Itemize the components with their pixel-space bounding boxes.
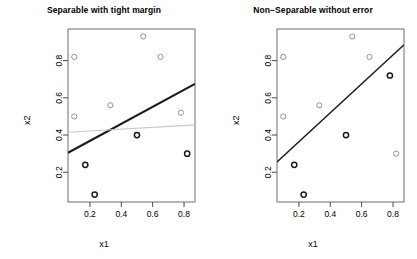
y-tick-label: 0.2 bbox=[54, 166, 64, 178]
plot-area bbox=[68, 34, 195, 197]
y-tick-label: 0.8 bbox=[54, 54, 64, 66]
x-tick-label: 0.2 bbox=[293, 209, 305, 219]
boundary-line-separating-boundary bbox=[277, 45, 404, 162]
data-point-class-light bbox=[367, 54, 372, 59]
x-tick-label: 0.2 bbox=[84, 209, 96, 219]
data-point-class-dark bbox=[92, 192, 97, 197]
data-point-class-dark bbox=[301, 192, 306, 197]
boundary-line-separating-boundary bbox=[68, 84, 195, 153]
data-point-class-dark bbox=[185, 151, 190, 156]
panel-right: Non−Separable without error x2 x1 0.20.4… bbox=[209, 0, 417, 259]
data-point-class-light bbox=[394, 151, 399, 156]
boundary-line-reference-boundary bbox=[68, 125, 195, 132]
data-point-class-dark bbox=[134, 132, 139, 137]
y-tick-label: 0.6 bbox=[54, 92, 64, 104]
x-tick-label: 0.8 bbox=[178, 209, 190, 219]
data-point-class-dark bbox=[343, 132, 348, 137]
panel-left: Separable with tight margin x2 x1 0.20.4… bbox=[0, 0, 208, 259]
x-tick-label: 0.4 bbox=[324, 209, 336, 219]
x-tick-label: 0.4 bbox=[115, 209, 127, 219]
data-point-class-dark bbox=[387, 73, 392, 78]
data-point-class-light bbox=[281, 54, 286, 59]
data-point-class-light bbox=[350, 34, 355, 39]
plot-area bbox=[277, 34, 404, 197]
data-point-class-dark bbox=[292, 162, 297, 167]
x-tick-label: 0.6 bbox=[356, 209, 368, 219]
data-point-class-dark bbox=[83, 162, 88, 167]
y-tick-label: 0.6 bbox=[263, 92, 273, 104]
y-tick-label: 0.2 bbox=[263, 166, 273, 178]
data-point-class-light bbox=[178, 110, 183, 115]
panel-left-plot: 0.20.40.60.80.20.40.60.8 bbox=[0, 0, 208, 259]
y-tick-label: 0.8 bbox=[263, 54, 273, 66]
data-point-class-light bbox=[72, 114, 77, 119]
data-point-class-light bbox=[317, 103, 322, 108]
x-tick-label: 0.6 bbox=[147, 209, 159, 219]
plot-frame bbox=[68, 29, 195, 202]
y-tick-label: 0.4 bbox=[263, 129, 273, 141]
plot-frame bbox=[277, 29, 404, 202]
x-tick-label: 0.8 bbox=[387, 209, 399, 219]
data-point-class-light bbox=[108, 103, 113, 108]
data-point-class-light bbox=[158, 54, 163, 59]
figure-canvas: Separable with tight margin x2 x1 0.20.4… bbox=[0, 0, 417, 259]
panel-right-plot: 0.20.40.60.80.20.40.60.8 bbox=[209, 0, 417, 259]
data-point-class-light bbox=[72, 54, 77, 59]
y-tick-label: 0.4 bbox=[54, 129, 64, 141]
data-point-class-light bbox=[141, 34, 146, 39]
data-point-class-light bbox=[281, 114, 286, 119]
